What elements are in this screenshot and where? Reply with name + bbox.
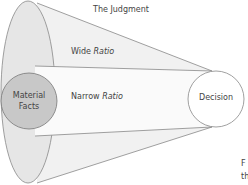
diagram-title: The Judgment — [93, 5, 149, 14]
narrow-ratio-label: Narrow Ratio — [71, 92, 123, 101]
material-facts-label: MaterialFacts — [2, 90, 56, 112]
cut-text: th — [241, 172, 248, 181]
wide-ratio-label: Wide Ratio — [71, 47, 114, 56]
cut-text: F — [241, 159, 246, 168]
decision-label: Decision — [188, 93, 244, 102]
